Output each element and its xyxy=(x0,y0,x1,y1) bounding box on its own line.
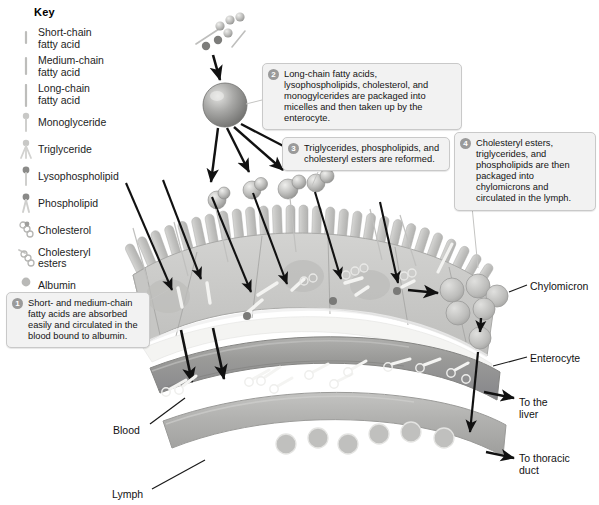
key-item-cholesteryl-esters: Cholesteryl esters xyxy=(18,247,138,270)
key-title: Key xyxy=(34,6,138,18)
cholesteryl-esters-icon xyxy=(18,247,38,269)
label-lymph: Lymph xyxy=(112,488,143,500)
callout-badge: 3 xyxy=(288,143,299,154)
key-label: Triglyceride xyxy=(38,144,92,156)
key-label: Albumin xyxy=(38,280,76,292)
key-item-lysophospholipid: Lysophospholipid xyxy=(18,166,138,188)
key-item-monoglyceride: Monoglyceride xyxy=(18,112,138,134)
key-label: Short-chain fatty acid xyxy=(38,27,92,50)
cholesterol-icon xyxy=(18,220,38,242)
key-item-long-chain-fatty-acid: Long-chain fatty acid xyxy=(18,83,138,106)
key-label: Long-chain fatty acid xyxy=(38,83,90,106)
callout-1: 1 Short- and medium-chain fatty acids ar… xyxy=(6,292,150,348)
phospholipid-icon xyxy=(18,193,38,215)
callout-badge: 2 xyxy=(268,69,279,80)
micelle xyxy=(203,83,247,127)
label-enterocyte: Enterocyte xyxy=(530,352,580,364)
key-label: Cholesteryl esters xyxy=(38,247,91,270)
callout-badge: 1 xyxy=(12,298,23,309)
label-to-liver: To the liver xyxy=(519,396,548,420)
callout-3: 3 Triglycerides, phospholipids, and chol… xyxy=(282,137,450,171)
key-item-cholesterol: Cholesterol xyxy=(18,220,138,242)
key-item-triglyceride: Triglyceride xyxy=(18,139,138,161)
callout-4: 4 Cholesteryl esters, triglycerides, and… xyxy=(454,132,596,211)
key-label: Phospholipid xyxy=(38,198,98,210)
lysophospholipid-icon xyxy=(18,166,38,188)
key-label: Medium-chain fatty acid xyxy=(38,55,104,78)
triglyceride-icon xyxy=(18,139,38,161)
diagram-canvas: Key Short-chain fatty acid Medium-chain … xyxy=(0,0,599,505)
key-label: Cholesterol xyxy=(38,225,91,237)
callout-2: 2 Long-chain fatty acids, lysophospholip… xyxy=(262,63,462,130)
label-chylomicron: Chylomicron xyxy=(530,280,588,292)
long-chain-fatty-acid-icon xyxy=(18,84,38,106)
callout-text: Triglycerides, phospholipids, and choles… xyxy=(290,143,443,165)
monoglyceride-icon xyxy=(18,112,38,134)
luminal-lipids xyxy=(196,12,245,50)
key-item-phospholipid: Phospholipid xyxy=(18,193,138,215)
arrow-to-micelle xyxy=(213,55,220,80)
key-legend: Key Short-chain fatty acid Medium-chain … xyxy=(18,6,138,302)
arrow-chylomicron-down xyxy=(480,318,481,332)
key-item-short-chain-fatty-acid: Short-chain fatty acid xyxy=(18,27,138,50)
callout-text: Short- and medium-chain fatty acids are … xyxy=(14,298,143,342)
callout-text: Cholesteryl esters, triglycerides, and p… xyxy=(462,138,589,205)
key-label: Lysophospholipid xyxy=(38,171,119,183)
medium-chain-fatty-acid-icon xyxy=(18,56,38,78)
lymph-vessel xyxy=(163,392,506,456)
key-item-medium-chain-fatty-acid: Medium-chain fatty acid xyxy=(18,55,138,78)
callout-text: Long-chain fatty acids, lysophospholipid… xyxy=(270,69,455,124)
callout-badge: 4 xyxy=(460,138,471,149)
micelle-highlight xyxy=(210,91,224,101)
short-chain-fatty-acid-icon xyxy=(18,28,38,50)
label-to-thoracic-duct: To thoracic duct xyxy=(519,452,570,476)
label-blood: Blood xyxy=(113,424,140,436)
key-label: Monoglyceride xyxy=(38,117,106,129)
micelle-cluster xyxy=(208,169,334,209)
